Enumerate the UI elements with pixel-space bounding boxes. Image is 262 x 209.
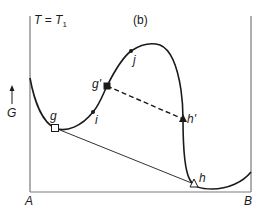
label-i: i (95, 114, 98, 126)
label-h: h (199, 172, 206, 184)
x-axis-right-label: B (244, 195, 252, 207)
point-g-prime-marker (104, 83, 111, 90)
point-h-prime-marker (179, 114, 187, 122)
x-axis-left-label: A (25, 195, 33, 207)
condition-equals: = (45, 13, 52, 27)
condition-symbol: T (34, 13, 41, 27)
temperature-condition: T = T1 (34, 14, 67, 29)
free-energy-curve (30, 44, 251, 189)
label-j: j (133, 54, 136, 66)
point-g-marker (52, 125, 59, 132)
arrow-head-icon (10, 85, 15, 91)
spinodal-tie-line (107, 86, 183, 119)
common-tangent-line (55, 128, 194, 184)
diagram-canvas (0, 0, 262, 209)
condition-subscript: 1 (62, 20, 66, 29)
y-axis-label: G (7, 107, 16, 119)
free-energy-diagram: T = T1 (b) G A B g i g' j h' h (0, 0, 262, 209)
label-h-prime: h' (187, 113, 196, 125)
panel-label: (b) (133, 14, 148, 26)
label-g: g (50, 110, 57, 122)
label-g-prime: g' (92, 78, 101, 90)
